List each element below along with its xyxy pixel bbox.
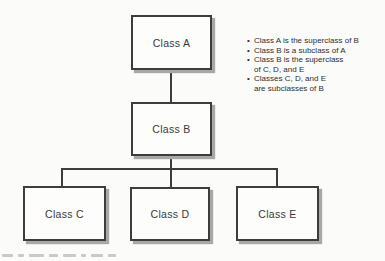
note-item-3: • Class B is the superclass of C, D, and… [247, 55, 383, 74]
class-hierarchy-diagram: Class A Class B Class C Class D Class E … [0, 0, 385, 261]
bullet-icon: • [247, 55, 254, 74]
node-class-c-label: Class C [45, 208, 84, 220]
edge-classA-classB [170, 70, 172, 102]
bullet-icon: • [247, 36, 254, 46]
bullet-icon: • [247, 74, 254, 93]
node-class-d: Class D [130, 187, 210, 241]
note-line: Classes C, D, and E [254, 74, 383, 84]
note-line: Class A is the superclass of B [254, 36, 383, 46]
node-class-e-label: Class E [258, 208, 296, 220]
note-item-2: • Class B is a subclass of A [247, 46, 383, 56]
node-class-d-label: Class D [151, 208, 190, 220]
notes-list: • Class A is the superclass of B • Class… [247, 36, 383, 94]
edge-rail-classD [170, 169, 172, 187]
node-class-e: Class E [236, 186, 319, 241]
note-item-1: • Class A is the superclass of B [247, 36, 383, 46]
note-line: of C, D, and E [254, 65, 383, 75]
edge-rail-classE [276, 169, 278, 186]
node-class-b: Class B [131, 102, 212, 156]
note-item-3-text: Class B is the superclass of C, D, and E [254, 55, 383, 74]
note-item-4: • Classes C, D, and E are subclasses of … [247, 74, 383, 93]
note-line: Class B is the superclass [254, 55, 383, 65]
edge-rail-classC [61, 169, 63, 186]
note-line: Class B is a subclass of A [254, 46, 383, 56]
node-class-a-label: Class A [153, 37, 191, 49]
bullet-icon: • [247, 46, 254, 56]
note-item-2-text: Class B is a subclass of A [254, 46, 383, 56]
node-class-c: Class C [23, 186, 106, 241]
node-class-a: Class A [131, 15, 212, 70]
note-item-4-text: Classes C, D, and E are subclasses of B [254, 74, 383, 93]
clipped-caption-fragment [2, 254, 162, 261]
node-class-b-label: Class B [152, 123, 190, 135]
note-item-1-text: Class A is the superclass of B [254, 36, 383, 46]
note-line: are subclasses of B [254, 84, 383, 94]
